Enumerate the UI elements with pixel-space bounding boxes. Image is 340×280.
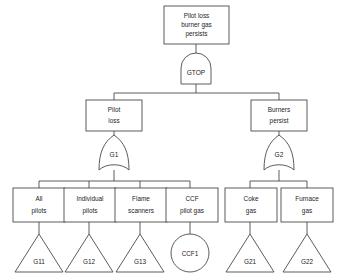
basic-event-ccf1-label: CCF1 xyxy=(182,250,199,257)
transfer-gate-g12[interactable]: G12 xyxy=(65,234,113,272)
leaf-event-coke-gas[interactable]: Coke gas xyxy=(225,188,277,222)
pilot-loss-box[interactable] xyxy=(86,100,142,131)
triangle-icon[interactable] xyxy=(65,234,113,272)
pilot-loss-label-line2: loss xyxy=(108,117,119,124)
top-event-label-line3: persists xyxy=(185,30,207,38)
burners-persist-label-line2: persist xyxy=(270,117,289,125)
burners-persist-box[interactable] xyxy=(251,100,307,131)
leaf-event-flame-scanners[interactable]: Flame scanners xyxy=(115,188,167,222)
coke-gas-box[interactable] xyxy=(225,188,277,222)
top-event-node[interactable]: Pilot loss burner gas persists xyxy=(164,6,229,44)
transfer-gate-g21-label: G21 xyxy=(244,258,257,265)
transfer-gate-g12-label: G12 xyxy=(83,258,96,265)
triangle-icon[interactable] xyxy=(226,234,274,272)
ccf-pilot-gas-label-line1: CCF xyxy=(185,195,198,202)
flame-scanners-label-line2: scanners xyxy=(128,207,154,214)
basic-event-ccf1[interactable]: CCF1 xyxy=(171,234,209,272)
furnace-gas-label-line2: gas xyxy=(302,207,312,215)
intermediate-event-pilot-loss[interactable]: Pilot loss xyxy=(86,100,142,131)
fault-tree-diagram: Pilot loss burner gas persists GTOP Pilo… xyxy=(0,0,340,280)
transfer-gate-g21[interactable]: G21 xyxy=(226,234,274,272)
top-event-label-line2: burner gas xyxy=(181,21,212,29)
individual-pilots-label-line2: pilots xyxy=(83,207,98,215)
ccf-pilot-gas-label-line2: pilot gas xyxy=(180,207,204,215)
pilot-loss-label-line1: Pilot xyxy=(108,106,121,113)
furnace-gas-label-line1: Furnace xyxy=(295,195,319,202)
furnace-gas-box[interactable] xyxy=(281,188,333,222)
flame-scanners-box[interactable] xyxy=(115,188,167,222)
intermediate-event-burners-persist[interactable]: Burners persist xyxy=(251,100,307,131)
leaf-event-ccf-pilot-gas[interactable]: CCF pilot gas xyxy=(166,188,218,222)
transfer-gate-g22[interactable]: G22 xyxy=(283,234,331,272)
gate-g2-label: G2 xyxy=(275,151,284,158)
leaf-event-all-pilots[interactable]: All pilots xyxy=(13,188,65,222)
gate-g1[interactable]: G1 xyxy=(99,135,129,170)
all-pilots-box[interactable] xyxy=(13,188,65,222)
triangle-icon[interactable] xyxy=(116,234,164,272)
top-event-label-line1: Pilot loss xyxy=(184,12,210,19)
transfer-gate-g13[interactable]: G13 xyxy=(116,234,164,272)
transfer-gate-g22-label: G22 xyxy=(301,258,314,265)
transfer-gate-g13-label: G13 xyxy=(134,258,147,265)
gate-gtop[interactable]: GTOP xyxy=(181,53,211,84)
transfer-gate-g11-label: G11 xyxy=(33,258,45,265)
all-pilots-label-line1: All xyxy=(35,195,42,202)
triangle-icon[interactable] xyxy=(283,234,331,272)
all-pilots-label-line2: pilots xyxy=(32,207,47,215)
ccf-pilot-gas-box[interactable] xyxy=(166,188,218,222)
coke-gas-label-line1: Coke xyxy=(244,195,259,202)
leaf-event-furnace-gas[interactable]: Furnace gas xyxy=(281,188,333,222)
gate-g2[interactable]: G2 xyxy=(264,135,294,170)
individual-pilots-box[interactable] xyxy=(64,188,116,222)
transfer-gate-g11[interactable]: G11 xyxy=(15,234,63,272)
coke-gas-label-line2: gas xyxy=(246,207,256,215)
individual-pilots-label-line1: Individual xyxy=(76,195,103,202)
fault-tree-canvas: Pilot loss burner gas persists GTOP Pilo… xyxy=(0,0,340,280)
burners-persist-label-line1: Burners xyxy=(268,106,290,113)
gate-gtop-label: GTOP xyxy=(187,69,206,76)
flame-scanners-label-line1: Flame xyxy=(132,195,150,202)
leaf-event-individual-pilots[interactable]: Individual pilots xyxy=(64,188,116,222)
triangle-icon[interactable] xyxy=(15,234,63,272)
gate-g1-label: G1 xyxy=(110,151,119,158)
